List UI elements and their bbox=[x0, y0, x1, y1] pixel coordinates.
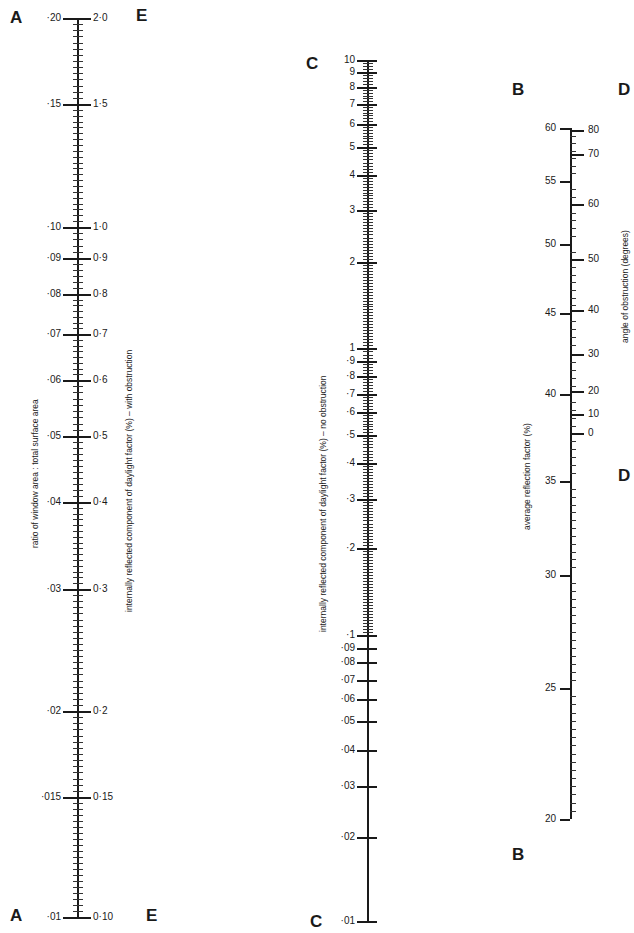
major-tick bbox=[63, 227, 91, 229]
minor-tick bbox=[570, 362, 576, 363]
minor-tick bbox=[363, 626, 373, 627]
major-tick bbox=[357, 463, 377, 465]
minor-tick bbox=[570, 220, 576, 221]
minor-tick bbox=[73, 620, 83, 621]
minor-tick bbox=[363, 623, 373, 624]
minor-tick bbox=[73, 198, 83, 199]
minor-tick bbox=[570, 267, 576, 268]
minor-tick bbox=[363, 533, 373, 534]
scale-c-label: ·5 bbox=[327, 430, 355, 440]
minor-tick bbox=[363, 259, 373, 260]
scale-letter-B-top: B bbox=[512, 80, 524, 100]
minor-tick bbox=[73, 595, 83, 596]
minor-tick bbox=[363, 429, 373, 430]
major-tick bbox=[63, 380, 91, 382]
minor-tick bbox=[363, 611, 373, 612]
minor-tick bbox=[73, 827, 83, 828]
minor-tick bbox=[73, 531, 83, 532]
major-tick bbox=[560, 181, 570, 183]
minor-tick bbox=[73, 572, 83, 573]
major-tick bbox=[357, 662, 377, 664]
minor-tick bbox=[363, 292, 373, 293]
minor-tick bbox=[363, 382, 373, 383]
minor-tick bbox=[363, 198, 373, 199]
minor-tick bbox=[363, 321, 373, 322]
minor-tick bbox=[363, 195, 373, 196]
minor-tick bbox=[73, 392, 83, 393]
minor-tick bbox=[363, 280, 373, 281]
minor-tick bbox=[73, 357, 83, 358]
minor-tick bbox=[73, 133, 83, 134]
minor-tick bbox=[73, 466, 83, 467]
major-tick bbox=[560, 128, 570, 130]
minor-tick bbox=[363, 418, 373, 419]
scale-c-label: ·2 bbox=[327, 543, 355, 553]
scale-c-label: 2 bbox=[327, 257, 355, 267]
major-tick bbox=[560, 244, 570, 246]
scale-d-label: 10 bbox=[588, 409, 599, 419]
scale-a-label: ·06 bbox=[37, 375, 61, 385]
minor-tick bbox=[73, 36, 83, 37]
minor-tick bbox=[73, 554, 83, 555]
scale-c-label: ·8 bbox=[327, 371, 355, 381]
scale-e-label: 1·5 bbox=[93, 99, 107, 109]
minor-tick bbox=[363, 367, 373, 368]
scale-a-label: ·15 bbox=[37, 99, 61, 109]
minor-tick bbox=[73, 607, 83, 608]
scale-b-label: 20 bbox=[534, 814, 556, 824]
minor-tick bbox=[73, 157, 83, 158]
minor-tick bbox=[363, 424, 373, 425]
scale-d-title: angle of obstruction (degrees) bbox=[620, 230, 630, 343]
major-tick bbox=[63, 917, 91, 919]
minor-tick bbox=[570, 370, 576, 371]
minor-tick bbox=[363, 219, 373, 220]
minor-tick bbox=[73, 264, 83, 265]
minor-tick bbox=[363, 478, 373, 479]
scale-d-label: 50 bbox=[588, 254, 599, 264]
minor-tick bbox=[363, 265, 373, 266]
minor-tick bbox=[363, 268, 373, 269]
major-tick bbox=[357, 680, 377, 682]
scale-e-label: 0·6 bbox=[93, 375, 107, 385]
minor-tick bbox=[363, 187, 373, 188]
minor-tick bbox=[570, 173, 576, 174]
minor-tick bbox=[363, 271, 373, 272]
scale-e-label: 0·7 bbox=[93, 329, 107, 339]
minor-tick bbox=[570, 552, 576, 553]
scale-b-label: 25 bbox=[534, 683, 556, 693]
minor-tick bbox=[363, 608, 373, 609]
scale-d-label: 40 bbox=[588, 305, 599, 315]
minor-tick bbox=[363, 373, 373, 374]
minor-tick bbox=[73, 490, 83, 491]
minor-tick bbox=[363, 403, 373, 404]
scale-e-label: 0·15 bbox=[93, 792, 113, 802]
minor-tick bbox=[363, 563, 373, 564]
scale-e-label: 1·0 bbox=[93, 222, 107, 232]
minor-tick bbox=[73, 92, 83, 93]
scale-b-label: 50 bbox=[534, 239, 556, 249]
minor-tick bbox=[363, 351, 373, 352]
minor-tick bbox=[570, 158, 576, 159]
minor-tick bbox=[363, 216, 373, 217]
minor-tick bbox=[73, 601, 83, 602]
minor-tick bbox=[570, 402, 576, 403]
minor-tick bbox=[73, 723, 83, 724]
minor-tick bbox=[73, 323, 83, 324]
minor-tick bbox=[570, 378, 576, 379]
scale-c-title: internally reflected component of daylig… bbox=[318, 375, 328, 632]
minor-tick bbox=[363, 539, 373, 540]
scale-c-label: 1 bbox=[327, 343, 355, 353]
minor-tick bbox=[363, 587, 373, 588]
minor-tick bbox=[363, 578, 373, 579]
minor-tick bbox=[73, 809, 83, 810]
minor-tick bbox=[363, 318, 373, 319]
minor-tick bbox=[363, 400, 373, 401]
minor-tick bbox=[73, 55, 83, 56]
scale-c-label: 4 bbox=[327, 170, 355, 180]
minor-tick bbox=[363, 96, 373, 97]
minor-tick bbox=[73, 662, 83, 663]
minor-tick bbox=[363, 274, 373, 275]
scale-letter-B-bottom: B bbox=[512, 845, 524, 865]
minor-tick bbox=[363, 530, 373, 531]
minor-tick bbox=[363, 207, 373, 208]
